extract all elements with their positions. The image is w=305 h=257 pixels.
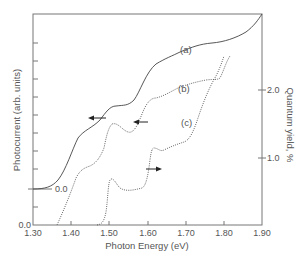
x-tick-label: 1.80 [215,228,233,238]
x-tick-labels: 1.30 1.40 1.50 1.60 1.70 1.80 1.90 [24,228,271,238]
series-label-c: (c) [181,117,192,128]
right-tick-label-1: 1.0 [267,153,280,163]
x-tick-label: 1.90 [253,228,271,238]
photocurrent-chart: 1.30 1.40 1.50 1.60 1.70 1.80 1.90 Photo… [0,0,305,257]
left-axis-ticks [28,43,52,207]
series-label-a: (a) [180,44,192,55]
right-axis-label: Quantum yield, % [285,88,296,164]
x-tick-label: 1.60 [139,228,157,238]
x-tick-label: 1.40 [62,228,80,238]
chart-svg: 1.30 1.40 1.50 1.60 1.70 1.80 1.90 Photo… [0,0,305,257]
bottom-axis-ticks [71,221,224,225]
series-a-curve [33,14,262,189]
arrow-c-right-icon [146,167,162,172]
x-axis-label: Photon Energy (eV) [105,240,188,251]
arrow-b-left-icon [133,120,148,125]
series-c-curve [97,56,224,225]
left-axis-label: Photocurrent (arb. units) [11,69,22,171]
zero-label-bottom: 0.0 [18,220,31,230]
x-tick-label: 1.70 [177,228,195,238]
right-tick-label-2: 2.0 [267,85,280,95]
x-tick-label: 1.50 [100,228,118,238]
series-label-b: (b) [178,83,190,94]
zero-label-a: 0.0 [55,184,68,194]
